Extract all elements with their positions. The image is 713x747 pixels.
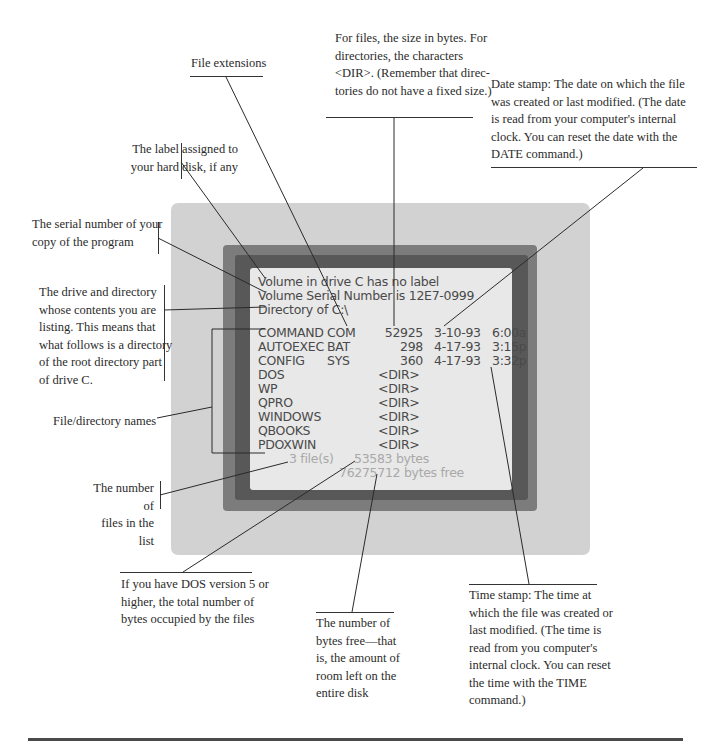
annotation-line: Date stamp: The date on which the file (491, 76, 701, 94)
annotation-line: clock. You can reset the date with the (491, 129, 701, 147)
dir-name: PDOXWIN (258, 437, 316, 452)
file-row: COMMAND COM 52925 3-10-93 6:00a (258, 325, 508, 339)
file-row: AUTOEXEC BAT 298 4-17-93 3:15p (258, 339, 508, 353)
annotation-line: internal clock. You can reset (469, 657, 613, 675)
file-date: 3-10-93 (434, 325, 481, 340)
file-time: 3:32p (492, 353, 527, 368)
rule (120, 572, 252, 573)
dir-row: QPRO <DIR> (258, 395, 508, 409)
annotation-line: DATE command.) (491, 146, 701, 164)
annotation-line: higher, the total number of (121, 594, 269, 612)
file-name: AUTOEXEC (258, 339, 324, 354)
dir-marker: <DIR> (378, 423, 419, 438)
annotation-disk-label: The label assigned to your hard disk, if… (78, 141, 238, 176)
file-size: 52925 (368, 325, 423, 340)
annotation-line: bytes free—that (316, 633, 400, 651)
dir-name: WP (258, 381, 277, 396)
file-time: 6:00a (492, 325, 526, 340)
annotation-line: Time stamp: The time at (469, 587, 613, 605)
annotation-line: files in the list (84, 515, 154, 550)
dir-marker: <DIR> (378, 395, 419, 410)
annotation-line: If you have DOS version 5 or (121, 576, 269, 594)
volume-label-line: Volume in drive C has no label (258, 274, 439, 289)
dir-marker: <DIR> (378, 409, 419, 424)
rule (316, 612, 394, 613)
rule (326, 117, 473, 118)
file-name: COMMAND (258, 325, 324, 340)
dir-marker: <DIR> (378, 437, 419, 452)
file-ext: SYS (327, 353, 350, 368)
dir-name: QBOOKS (258, 423, 310, 438)
annotation-line: The label assigned to (78, 141, 238, 159)
dir-row: PDOXWIN <DIR> (258, 437, 508, 451)
file-size: 360 (368, 353, 423, 368)
annotation-line: tories do not have a fixed size.) (335, 83, 515, 101)
annotation-line: command.) (469, 692, 613, 710)
bracket (181, 143, 182, 179)
annotation-line: copy of the program (32, 234, 163, 252)
annotation-line: whose contents you are (39, 302, 172, 320)
annotation-line: entire disk (316, 685, 400, 703)
dir-row: WINDOWS <DIR> (258, 409, 508, 423)
annotation-time-stamp: Time stamp: The time at which the file w… (469, 587, 613, 710)
annotation-line: For files, the size in bytes. For (335, 30, 515, 48)
dir-row: WP <DIR> (258, 381, 508, 395)
dos-screen: Volume in drive C has no label Volume Se… (250, 268, 512, 490)
annotation-line: was created or last modified. (The date (491, 94, 701, 112)
annotation-line: your hard disk, if any (78, 159, 238, 177)
annotation-line: The number of (316, 615, 400, 633)
annotation-line: The drive and directory (39, 284, 172, 302)
file-date: 4-17-93 (434, 339, 481, 354)
annotation-line: <DIR>. (Remember that direc- (335, 65, 515, 83)
bracket (158, 222, 159, 254)
volume-serial-line: Volume Serial Number is 12E7-0999 (258, 288, 474, 303)
annotation-line: The serial number of your (32, 216, 163, 234)
file-date: 4-17-93 (434, 353, 481, 368)
annotation-date-stamp: Date stamp: The date on which the file w… (491, 76, 701, 164)
dir-name: DOS (258, 367, 285, 382)
file-time: 3:15p (492, 339, 527, 354)
bytes-used: 53583 bytes (354, 451, 429, 466)
annotation-line: what follows is a directory (39, 337, 172, 355)
annotation-serial-number: The serial number of your copy of the pr… (32, 216, 163, 251)
dir-name: QPRO (258, 395, 293, 410)
rule (491, 167, 697, 168)
annotation-line: last modified. (The time is (469, 622, 613, 640)
annotation-line: read from you computer's (469, 640, 613, 658)
file-count: 3 file(s) (289, 451, 334, 466)
annotation-line: room left on the (316, 668, 400, 686)
directory-of-line: Directory of C:\ (258, 302, 348, 317)
page-bottom-rule (28, 738, 683, 741)
annotation-line: is, the amount of (316, 650, 400, 668)
annotation-bytes-free: The number of bytes free—that is, the am… (316, 615, 400, 703)
dir-row: DOS <DIR> (258, 367, 508, 381)
dir-marker: <DIR> (378, 367, 419, 382)
annotation-drive-directory: The drive and directory whose contents y… (39, 284, 172, 389)
annotation-line: the time with the TIME (469, 675, 613, 693)
rule (190, 76, 263, 77)
rule (469, 584, 597, 585)
annotation-line: which the file was created or (469, 605, 613, 623)
file-ext: BAT (327, 339, 350, 354)
dir-marker: <DIR> (378, 381, 419, 396)
annotation-line: The number of (84, 480, 154, 515)
annotation-line: is read from your computer's internal (491, 111, 701, 129)
bracket (160, 481, 161, 509)
annotation-size-in-bytes: For files, the size in bytes. For direct… (335, 30, 515, 100)
dir-name: WINDOWS (258, 409, 321, 424)
annotation-number-of-files: The number of files in the list (84, 480, 154, 550)
annotation-total-bytes: If you have DOS version 5 or higher, the… (121, 576, 269, 629)
annotation-file-extensions: File extensions (191, 55, 266, 73)
bracket (164, 285, 165, 381)
dir-row: QBOOKS <DIR> (258, 423, 508, 437)
annotation-line: directories, the characters (335, 48, 515, 66)
annotation-line: of drive C. (39, 372, 172, 390)
annotation-line: of the root directory part (39, 354, 172, 372)
file-name: CONFIG (258, 353, 305, 368)
annotation-file-dir-names: File/directory names (53, 413, 156, 431)
file-ext: COM (327, 325, 355, 340)
annotation-line: bytes occupied by the files (121, 611, 269, 629)
file-row: CONFIG SYS 360 4-17-93 3:32p (258, 353, 508, 367)
annotation-line: listing. This means that (39, 319, 172, 337)
bytes-free: 76275712 bytes free (339, 465, 464, 480)
